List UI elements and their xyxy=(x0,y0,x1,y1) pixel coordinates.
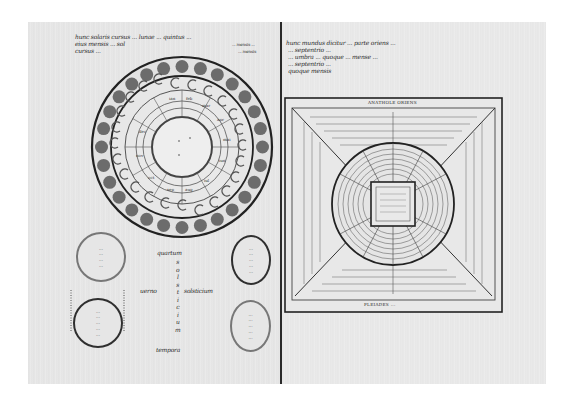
svg-text:feb: feb xyxy=(186,96,193,101)
roundel-top-left: ... ... ... ... xyxy=(76,232,126,282)
svg-text:oct: oct xyxy=(148,175,155,180)
label-anathole-oriens: ANATHOLE ORIENS xyxy=(368,101,417,105)
left-page: hunc solaris cursus ... lunae ... quintu… xyxy=(28,22,281,384)
right-page: hunc mundus dicitur ... parte oriens ...… xyxy=(282,22,546,384)
cosmological-square-diagram xyxy=(282,22,546,384)
label-tempora: tempora xyxy=(156,347,180,353)
svg-text:iun: iun xyxy=(219,158,226,163)
svg-text:sep: sep xyxy=(167,187,174,192)
svg-text:ian: ian xyxy=(169,96,176,101)
svg-text:apr: apr xyxy=(217,117,224,122)
roundel-bottom-right: ... ... ... ... ... xyxy=(230,300,271,352)
label-uerno: uerno xyxy=(140,288,157,294)
label-quartum: quartum xyxy=(157,250,182,256)
manuscript-spread: hunc solaris cursus ... lunae ... quintu… xyxy=(28,22,546,384)
svg-text:iul: iul xyxy=(204,178,210,183)
label-bottom: PLEIADES ... xyxy=(364,303,397,307)
svg-text:aug: aug xyxy=(185,187,193,192)
roundel-bottom-left: ... ... ... ... ... xyxy=(73,298,123,348)
svg-text:dec: dec xyxy=(139,129,147,134)
svg-text:mai: mai xyxy=(223,137,231,142)
svg-text:mar: mar xyxy=(202,103,210,108)
label-solsticium-vertical: s o l s t i c i u m xyxy=(175,258,181,333)
label-solsticium: solsticium xyxy=(184,288,213,294)
roundel-top-right: ... ... ... ... ... xyxy=(231,235,271,285)
svg-text:nov: nov xyxy=(136,153,144,158)
